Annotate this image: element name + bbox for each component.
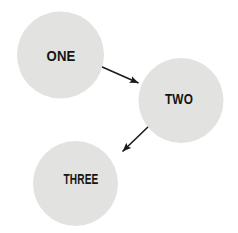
flow-diagram: ONE TWO THREE [0, 0, 238, 233]
node-label-two: TWO [165, 90, 193, 107]
diagram-canvas: ONE TWO THREE [0, 0, 238, 233]
arrow-two-to-three [123, 125, 151, 152]
node-label-one: ONE [47, 47, 76, 64]
arrow-one-to-two [100, 66, 139, 83]
node-label-three: THREE [64, 170, 99, 187]
